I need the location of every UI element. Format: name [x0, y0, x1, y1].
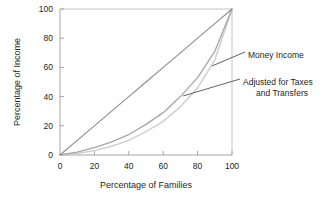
lorenz-curve-figure: 020406080100 020406080100 Percentage of …	[0, 0, 331, 200]
chart-canvas: 020406080100 020406080100 Percentage of …	[0, 0, 331, 200]
y-tick-label-20: 20	[44, 121, 54, 131]
y-tick-label-40: 40	[44, 92, 54, 102]
y-axis-title: Percentage of Income	[12, 38, 22, 126]
x-tick-label-20: 20	[90, 161, 100, 171]
x-tick-label-0: 0	[58, 161, 63, 171]
x-tick-label-60: 60	[158, 161, 168, 171]
x-tick-label-80: 80	[193, 161, 203, 171]
x-axis-ticks	[94, 151, 232, 155]
x-axis-title: Percentage of Families	[100, 180, 193, 190]
y-tick-label-0: 0	[48, 150, 53, 160]
series-line-of-equality	[60, 9, 232, 155]
annotation-leaders	[183, 52, 245, 96]
x-tick-label-40: 40	[124, 161, 134, 171]
annotation-adjusted-line2: and Transfers	[256, 88, 308, 98]
y-axis-tick-labels: 020406080100	[39, 4, 53, 160]
x-tick-label-100: 100	[225, 161, 239, 171]
y-tick-label-100: 100	[39, 4, 53, 14]
y-tick-label-80: 80	[44, 33, 54, 43]
annotation-money-income: Money Income	[248, 50, 304, 60]
x-axis-tick-labels: 020406080100	[58, 161, 240, 171]
y-tick-label-60: 60	[44, 62, 54, 72]
data-series-group	[60, 9, 232, 155]
annotation-adjusted-line1: Adjusted for Taxes	[243, 77, 313, 87]
leader-line-adjusted-for-taxes	[183, 79, 240, 96]
y-axis-ticks	[60, 9, 64, 126]
